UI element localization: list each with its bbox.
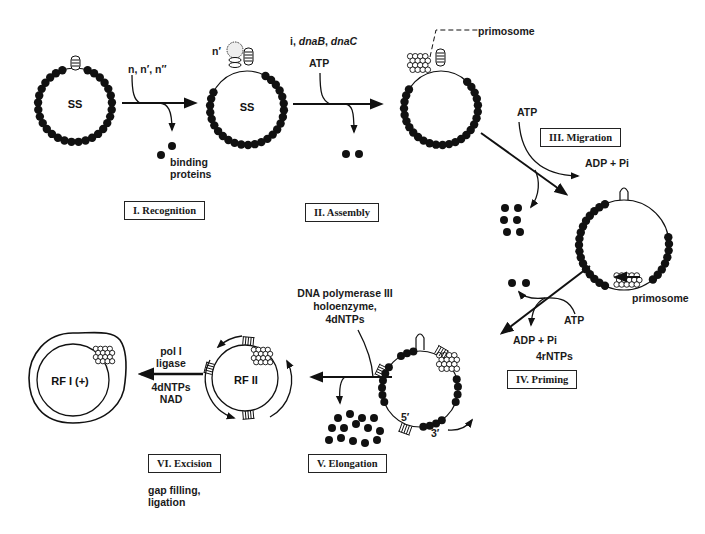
elongation-enzyme-label-3: 4dNTPs: [325, 313, 364, 325]
excision-cofactor-label-1: 4dNTPs: [151, 381, 190, 393]
dna-circle-5: [375, 334, 472, 435]
stage-label-recognition: I. Recognition: [124, 201, 205, 220]
stage-label-assembly: II. Assembly: [305, 203, 379, 222]
circle-label-rf1: RF I (+): [51, 375, 89, 387]
stage-label-elongation: V. Elongation: [308, 454, 387, 473]
five-prime-label: 5′: [401, 411, 409, 423]
circle-label-rf2: RF II: [234, 374, 258, 386]
excision-enzyme-label-1: pol I: [160, 345, 182, 357]
three-prime-label: 3′: [431, 427, 439, 439]
binding-proteins-label-2: proteins: [170, 168, 211, 180]
elongation-enzyme-label-2: holoenzyme,: [313, 300, 377, 312]
ss-dna-circle-2: [206, 42, 288, 149]
migration-atp-label: ATP: [517, 106, 537, 118]
assembly-atp-label: ATP: [309, 57, 329, 69]
recognition-arrow: [122, 75, 195, 159]
circle-label-ss-2: SS: [240, 101, 255, 113]
stage-label-priming: IV. Priming: [507, 370, 577, 389]
excision-enzyme-label-2: ligase: [156, 357, 186, 369]
priming-rntps-label: 4rNTPs: [536, 350, 573, 362]
circle-label-ss-1: SS: [68, 98, 83, 110]
excision-note-2: ligation: [148, 496, 185, 508]
primosome-label-top: primosome: [478, 25, 535, 37]
binding-proteins-label-1: binding: [170, 156, 208, 168]
primosome-cluster: [407, 53, 430, 72]
stage-label-migration: III. Migration: [540, 128, 621, 147]
primed-dna-circle-3: [400, 30, 482, 149]
elongation-enzyme-label-1: DNA polymerase III: [297, 287, 392, 299]
assembly-arrow: [293, 73, 381, 158]
priming-atp-label: ATP: [564, 314, 584, 326]
assembly-input-label: i, dnaB, dnaC: [290, 35, 357, 47]
excision-cofactor-label-2: NAD: [160, 393, 183, 405]
migration-adp-label: ADP + Pi: [585, 157, 629, 169]
n-prime-label: n′: [212, 45, 221, 57]
recognition-input-label: n, n′, n″: [128, 63, 166, 75]
primosome-label-priming: primosome: [632, 292, 689, 304]
dna-circle-4: [575, 188, 673, 290]
stage-label-excision: VI. Excision: [148, 454, 221, 473]
priming-adp-label: ADP + Pi: [513, 334, 557, 346]
excision-note-1: gap filling,: [148, 484, 201, 496]
